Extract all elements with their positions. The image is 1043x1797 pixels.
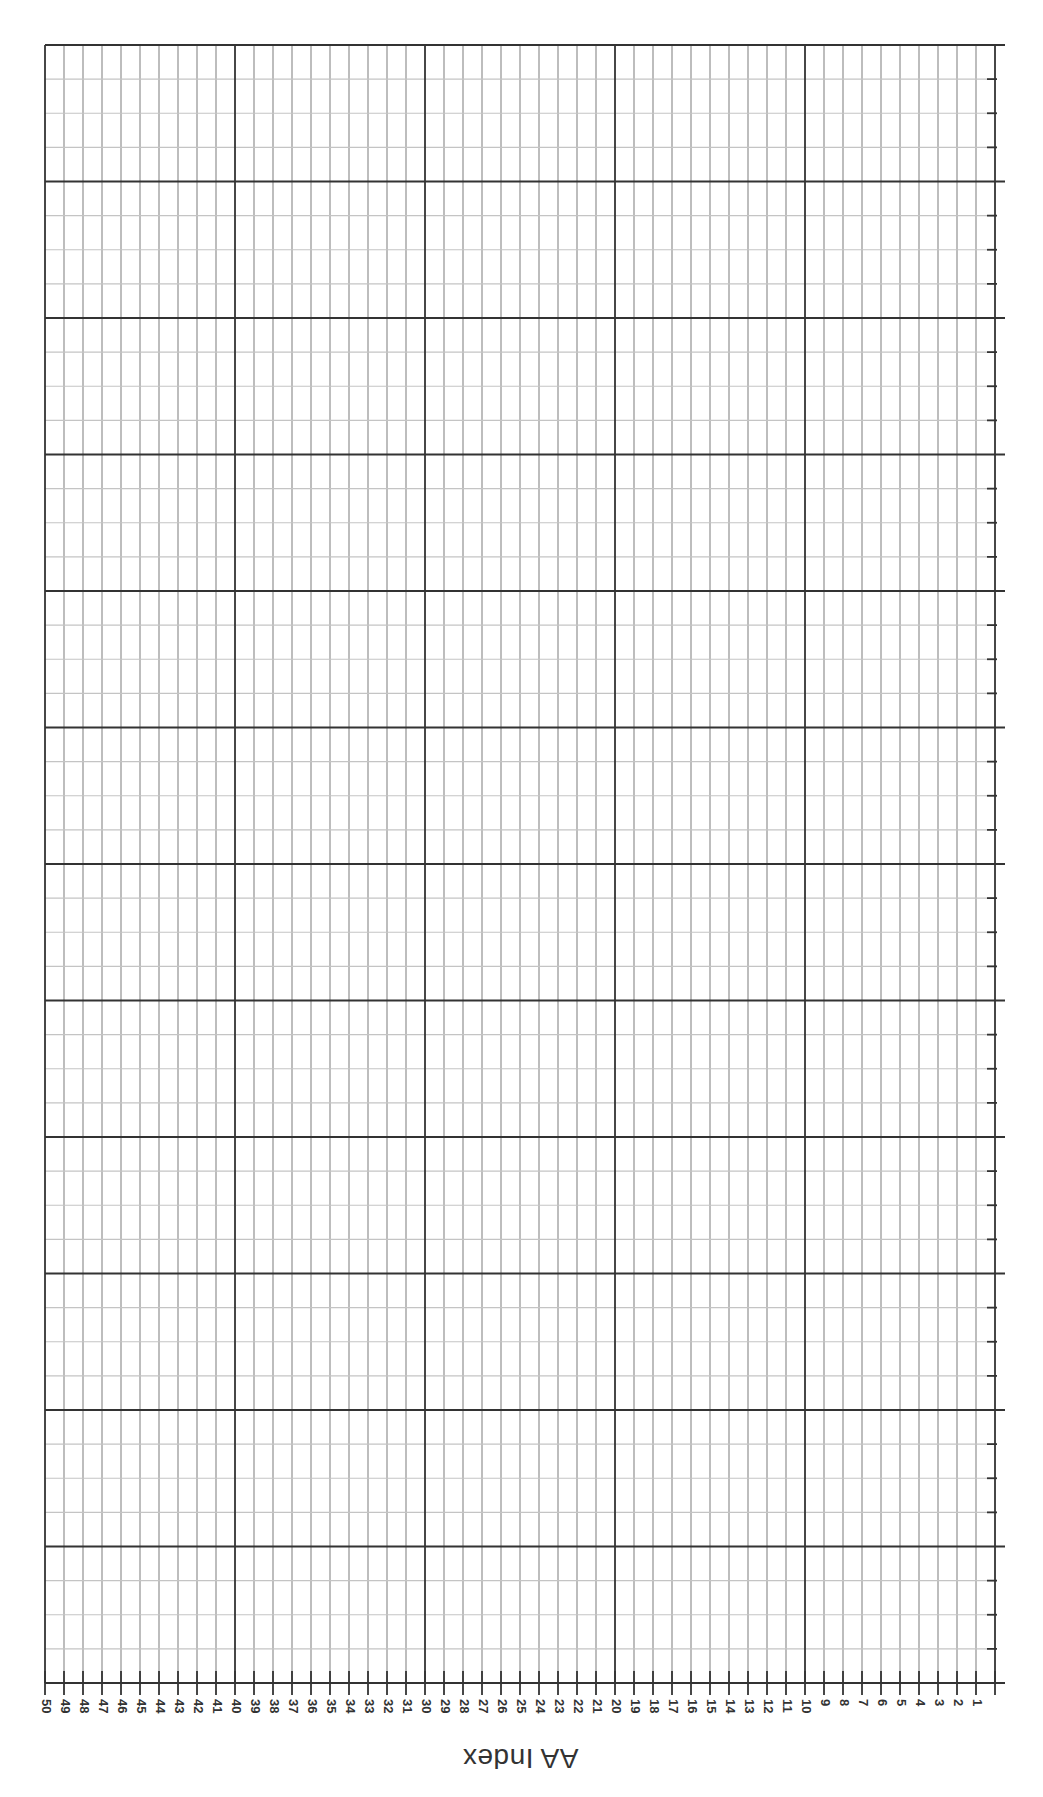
x-tick-label: 1 [970, 1699, 985, 1706]
major-gridlines [45, 45, 1005, 1683]
x-tick-label: 22 [571, 1699, 586, 1713]
x-tick-label: 48 [77, 1699, 92, 1713]
x-tick-label: 12 [761, 1699, 776, 1713]
x-tick-label: 49 [58, 1699, 73, 1713]
x-tick-label: 37 [286, 1699, 301, 1713]
x-tick-label: 4 [913, 1699, 928, 1707]
x-tick-label: 5 [894, 1699, 909, 1706]
graph-paper-grid: 5049484746454443424140393837363534333231… [0, 0, 1043, 1797]
x-tick-label: 20 [609, 1699, 624, 1713]
x-tick-label: 38 [267, 1699, 282, 1713]
x-tick-labels: 5049484746454443424140393837363534333231… [39, 1699, 985, 1714]
x-tick-label: 44 [153, 1699, 168, 1714]
x-tick-label: 27 [476, 1699, 491, 1713]
x-tick-label: 18 [647, 1699, 662, 1713]
x-tick-label: 39 [248, 1699, 263, 1713]
x-tick-label: 23 [552, 1699, 567, 1713]
x-tick-label: 46 [115, 1699, 130, 1713]
x-tick-label: 36 [305, 1699, 320, 1713]
x-tick-label: 15 [704, 1699, 719, 1713]
x-tick-label: 45 [134, 1699, 149, 1713]
x-tick-label: 32 [381, 1699, 396, 1713]
x-tick-label: 13 [742, 1699, 757, 1713]
x-tick-label: 26 [495, 1699, 510, 1713]
x-tick-label: 16 [685, 1699, 700, 1713]
x-tick-label: 2 [951, 1699, 966, 1706]
x-tick-label: 8 [837, 1699, 852, 1706]
x-tick-label: 31 [400, 1699, 415, 1713]
x-tick-label: 34 [343, 1699, 358, 1714]
x-tick-label: 33 [362, 1699, 377, 1713]
x-axis-label: AA Index [0, 1742, 1042, 1774]
x-tick-label: 43 [172, 1699, 187, 1713]
x-tick-label: 47 [96, 1699, 111, 1713]
x-tick-label: 30 [419, 1699, 434, 1713]
x-tick-label: 21 [590, 1699, 605, 1713]
x-tick-label: 10 [799, 1699, 814, 1713]
x-tick-label: 28 [457, 1699, 472, 1713]
x-tick-label: 50 [39, 1699, 54, 1713]
x-tick-label: 42 [191, 1699, 206, 1713]
x-tick-label: 41 [210, 1699, 225, 1713]
x-tick-label: 9 [818, 1699, 833, 1706]
x-tick-label: 17 [666, 1699, 681, 1713]
x-tick-label: 19 [628, 1699, 643, 1713]
x-tick-label: 40 [229, 1699, 244, 1713]
x-tick-label: 6 [875, 1699, 890, 1706]
x-tick-label: 29 [438, 1699, 453, 1713]
x-tick-label: 14 [723, 1699, 738, 1714]
x-tick-label: 7 [856, 1699, 871, 1706]
x-tick-label: 25 [514, 1699, 529, 1713]
x-tick-label: 11 [780, 1699, 795, 1713]
x-tick-label: 35 [324, 1699, 339, 1713]
x-tick-label: 3 [932, 1699, 947, 1706]
axis-ticks [45, 79, 997, 1695]
x-tick-label: 24 [533, 1699, 548, 1714]
